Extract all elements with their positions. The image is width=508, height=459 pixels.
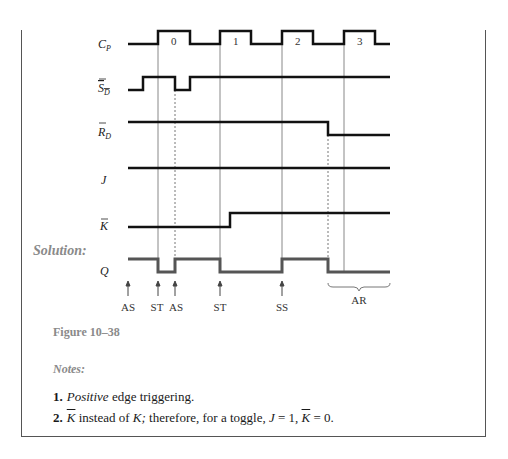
waveform-kbar bbox=[128, 213, 390, 227]
label-q: Q bbox=[100, 264, 109, 278]
figure-caption: Figure 10–38 bbox=[53, 325, 120, 340]
note-2-k: K; bbox=[133, 410, 146, 425]
event-label-ss: SS bbox=[276, 301, 288, 313]
label-sd: SD bbox=[98, 81, 110, 97]
label-kbar: K bbox=[99, 219, 109, 233]
note-2-text-b: therefore, for a toggle, bbox=[146, 410, 269, 425]
ar-brace bbox=[328, 283, 390, 291]
event-label-as-1: AS bbox=[121, 301, 135, 313]
clock-pulse-1: 1 bbox=[233, 35, 239, 47]
waveform-q bbox=[128, 259, 390, 272]
event-label-as-2: AS bbox=[169, 301, 183, 313]
waveform-rd bbox=[128, 122, 390, 135]
clock-pulse-0: 0 bbox=[171, 35, 177, 47]
label-j: J bbox=[101, 173, 107, 187]
clock-edge-gridlines bbox=[158, 31, 344, 272]
note-2-number: 2. bbox=[53, 410, 63, 425]
note-1-text: edge triggering. bbox=[109, 389, 195, 404]
note-2-text-d: = 0. bbox=[310, 410, 334, 425]
clock-pulse-2: 2 bbox=[295, 35, 301, 47]
note-2-text-c: = 1, bbox=[275, 410, 302, 425]
waveform-cp bbox=[128, 31, 390, 44]
note-1-emphasis: Positive bbox=[67, 389, 109, 404]
note-2-kbar-2: K bbox=[302, 410, 311, 425]
solution-label: Solution: bbox=[33, 243, 87, 259]
note-2: 2.K instead of K; therefore, for a toggl… bbox=[53, 410, 334, 426]
note-1-number: 1. bbox=[53, 389, 63, 404]
event-arrows bbox=[126, 281, 284, 296]
async-dashed-lines bbox=[175, 90, 328, 259]
label-cp: CP bbox=[98, 37, 111, 53]
waveform-sd bbox=[128, 77, 390, 90]
note-1: 1.Positive edge triggering. bbox=[53, 389, 194, 405]
signal-labels: CP SD RD J K Q bbox=[97, 37, 111, 278]
event-label-st-1: ST bbox=[151, 301, 164, 313]
note-2-text-a: instead of bbox=[75, 410, 132, 425]
ar-label: AR bbox=[351, 294, 367, 306]
clock-pulse-3: 3 bbox=[357, 35, 363, 47]
notes-title: Notes: bbox=[53, 362, 85, 377]
label-rd: RD bbox=[97, 125, 111, 141]
event-label-st-2: ST bbox=[214, 301, 227, 313]
